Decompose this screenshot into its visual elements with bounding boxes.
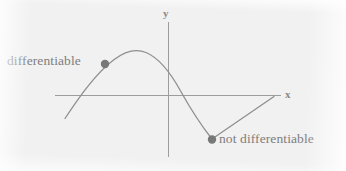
function-graph-group xyxy=(65,51,274,139)
differentiable-annotation-label: differentiable xyxy=(7,53,81,69)
marker-group xyxy=(101,60,216,144)
differentiable-point-marker xyxy=(101,60,109,68)
x-axis-label: x xyxy=(285,88,291,100)
parabola-curve-path xyxy=(65,51,212,139)
not-differentiable-point-marker xyxy=(208,135,216,143)
not-differentiable-annotation-label: not differentiable xyxy=(219,131,314,147)
derivative-diagram-figure: y x differentiable not differentiable xyxy=(0,0,346,171)
y-axis-label: y xyxy=(163,7,169,19)
